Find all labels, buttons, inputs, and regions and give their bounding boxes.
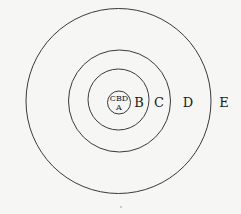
label-e: E: [219, 95, 229, 110]
label-b: B: [134, 95, 144, 110]
stray-dot: [120, 206, 121, 207]
label-c: C: [154, 95, 164, 110]
label-a: A: [115, 103, 122, 112]
concentric-zone-diagram: CBD A B C D E: [0, 0, 241, 214]
label-cbd: CBD: [110, 94, 128, 103]
label-d: D: [183, 95, 193, 110]
